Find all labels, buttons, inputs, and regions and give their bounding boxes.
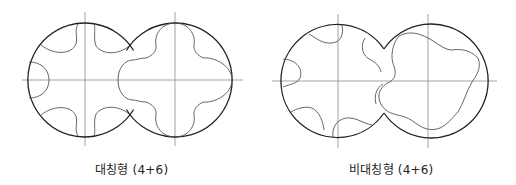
- asymmetric-caption: 비대칭형 (4+6): [349, 160, 434, 177]
- asymmetric-rotor-pair: [272, 14, 497, 148]
- rotor-profiles-diagram: [0, 0, 516, 185]
- symmetric-rotor-pair: [22, 12, 243, 146]
- symmetric-caption: 대칭형 (4+6): [95, 160, 168, 177]
